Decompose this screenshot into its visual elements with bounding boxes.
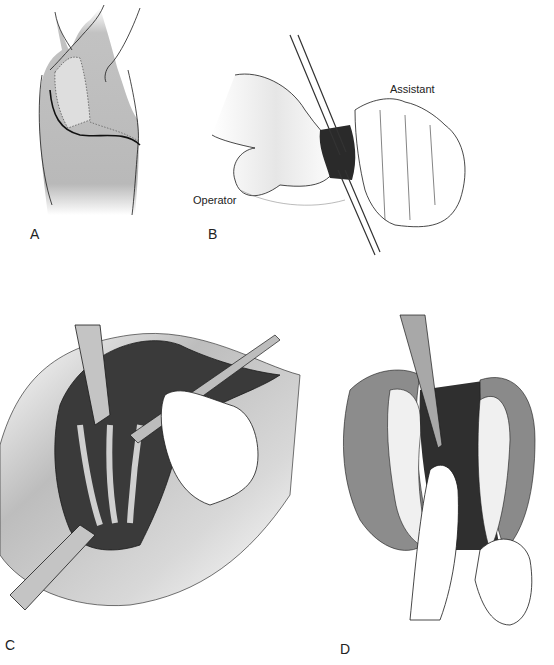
panel-a-illustration xyxy=(0,0,180,250)
panel-c-illustration xyxy=(0,295,310,615)
panel-label-d: D xyxy=(340,641,350,657)
panel-b-illustration xyxy=(180,30,480,270)
panel-label-c: C xyxy=(5,637,15,653)
assistant-hand xyxy=(355,99,465,227)
panel-d: D xyxy=(330,290,554,660)
panel-label-a: A xyxy=(30,226,39,242)
panel-d-illustration xyxy=(330,290,554,640)
figure-caption-cutoff xyxy=(30,657,540,665)
panel-a: A xyxy=(0,0,180,250)
panel-b: Operator Assistant B xyxy=(180,30,480,270)
panel-label-b: B xyxy=(208,226,217,242)
panel-c: C xyxy=(0,295,310,655)
thumb xyxy=(475,539,532,625)
callout-assistant: Assistant xyxy=(390,83,435,95)
callout-operator: Operator xyxy=(193,194,236,206)
